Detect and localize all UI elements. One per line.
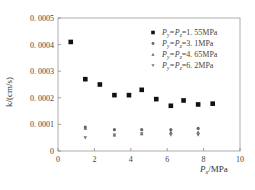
- x-axis-label: Px/MPa: [199, 164, 228, 175]
- triangle-down-marker: [196, 134, 200, 137]
- y-axis-label: k/(cm/s): [4, 77, 14, 107]
- square-marker: [83, 77, 88, 82]
- circle-marker: [140, 128, 143, 131]
- x-tick-label: 8: [202, 155, 206, 164]
- y-axis: 00. 00010. 00020. 00030. 00040. 0005: [30, 14, 61, 156]
- circle-marker: [152, 42, 155, 45]
- y-tick-label: 0. 0003: [30, 67, 54, 76]
- triangle-down-marker: [84, 136, 88, 139]
- triangle-down-marker: [151, 64, 154, 67]
- square-marker: [112, 93, 117, 98]
- x-tick-label: 2: [92, 155, 96, 164]
- square-marker: [154, 97, 159, 102]
- y-tick-label: 0. 0005: [30, 14, 54, 23]
- legend-item-label: Py=Pz=6. 2MPa: [161, 61, 214, 71]
- triangle-up-marker: [151, 53, 154, 56]
- x-tick-label: 10: [236, 155, 244, 164]
- square-marker: [210, 101, 215, 106]
- square-marker: [139, 88, 144, 93]
- triangle-up-marker: [196, 131, 200, 134]
- square-marker: [68, 40, 73, 45]
- scatter-chart: 00. 00010. 00020. 00030. 00040. 0005 024…: [0, 0, 255, 190]
- square-marker: [181, 98, 186, 103]
- square-marker: [151, 31, 155, 35]
- square-marker: [98, 82, 103, 87]
- y-tick-label: 0. 0001: [30, 120, 54, 129]
- legend-item-label: Py=Pz=1. 55MPa: [161, 28, 218, 38]
- legend: Py=Pz=1. 55MPaPy=Pz=3. 1MPaPy=Pz=4. 65MP…: [151, 28, 218, 71]
- y-tick-label: 0. 0004: [30, 41, 54, 50]
- square-marker: [127, 93, 132, 98]
- x-tick-label: 4: [129, 155, 133, 164]
- square-marker: [169, 103, 174, 108]
- square-marker: [196, 102, 201, 107]
- y-tick-label: 0: [50, 147, 54, 156]
- legend-item-label: Py=Pz=3. 1MPa: [161, 39, 214, 49]
- legend-item-label: Py=Pz=4. 65MPa: [161, 50, 218, 60]
- triangle-up-marker: [169, 131, 173, 134]
- triangle-down-marker: [169, 134, 173, 137]
- x-axis: 0246810: [56, 148, 244, 164]
- circle-marker: [197, 127, 200, 130]
- x-tick-label: 6: [165, 155, 169, 164]
- plot-frame: [58, 18, 240, 151]
- y-tick-label: 0. 0002: [30, 94, 54, 103]
- circle-marker: [113, 128, 116, 131]
- x-tick-label: 0: [56, 155, 60, 164]
